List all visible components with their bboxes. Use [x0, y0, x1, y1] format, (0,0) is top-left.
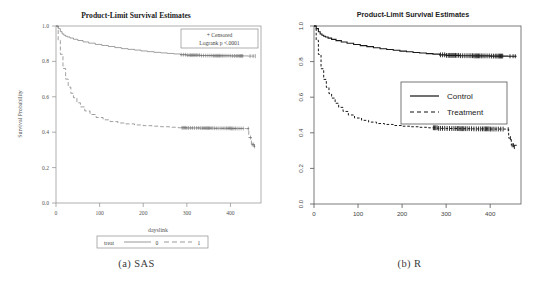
r-legend-label-control: Control — [447, 92, 473, 101]
y-tick-label: 0.0 — [297, 199, 304, 208]
sas-subcaption: (a) SAS — [0, 258, 273, 269]
y-tick-label: 0.2 — [297, 164, 304, 173]
r-chart-title: Product-Limit Survival Estimates — [357, 10, 470, 19]
sas-x-axis: 0100200300400 — [55, 203, 235, 216]
r-subcaption: (b) R — [273, 258, 546, 269]
sas-annotation-box: + Censored Logrank p <.0001 — [181, 29, 258, 48]
x-tick-label: 400 — [226, 210, 235, 216]
sas-plot-area: Product-Limit Survival Estimates 0.00.20… — [0, 0, 273, 250]
x-tick-label: 200 — [139, 210, 148, 216]
sas-svg: Product-Limit Survival Estimates 0.00.20… — [0, 0, 273, 250]
sas-legend-label-1: 1 — [198, 240, 201, 246]
sas-x-axis-label: dayslink — [148, 227, 168, 233]
x-tick-label: 0 — [312, 210, 316, 217]
curve-control — [314, 26, 517, 56]
y-tick-label: 0.0 — [42, 200, 49, 206]
y-tick-label: 0.6 — [297, 92, 304, 101]
sas-chart-title: Product-Limit Survival Estimates — [81, 11, 191, 20]
sas-legend[interactable]: treat 0 1 — [97, 236, 208, 248]
r-svg: Product-Limit Survival Estimates 0.00.20… — [273, 0, 546, 250]
sas-y-axis: 0.00.20.40.60.81.0 — [42, 23, 56, 206]
r-y-axis: 0.00.20.40.60.81.0 — [297, 21, 314, 208]
y-tick-label: 0.4 — [297, 128, 304, 137]
sas-legend-label-0: 0 — [156, 240, 159, 246]
y-tick-label: 0.2 — [42, 165, 49, 171]
r-x-axis: 0100200300400 — [312, 204, 496, 217]
figure-survival-curves: Product-Limit Survival Estimates 0.00.20… — [0, 0, 546, 289]
x-tick-label: 300 — [183, 210, 192, 216]
y-tick-label: 0.4 — [42, 129, 49, 135]
subfigure-sas: Product-Limit Survival Estimates 0.00.20… — [0, 0, 273, 289]
y-tick-label: 0.8 — [42, 58, 49, 64]
y-tick-label: 1.0 — [42, 23, 49, 29]
x-tick-label: 0 — [55, 210, 58, 216]
r-plot-area: Product-Limit Survival Estimates 0.00.20… — [273, 0, 546, 250]
y-tick-label: 1.0 — [297, 21, 304, 30]
subfigure-r: Product-Limit Survival Estimates 0.00.20… — [273, 0, 546, 289]
y-tick-label: 0.8 — [297, 57, 304, 66]
x-tick-label: 100 — [353, 210, 364, 217]
r-legend[interactable]: Control Treatment — [401, 82, 507, 124]
sas-legend-title: treat — [104, 240, 114, 246]
y-tick-label: 0.6 — [42, 94, 49, 100]
sas-y-axis-label: Survival Probability — [17, 90, 23, 138]
x-tick-label: 200 — [397, 210, 408, 217]
x-tick-label: 400 — [485, 210, 496, 217]
sas-censor-marks — [180, 53, 255, 149]
x-tick-label: 300 — [441, 210, 452, 217]
sas-censored-note: + Censored — [207, 32, 233, 38]
sas-logrank-note: Logrank p <.0001 — [199, 40, 239, 46]
r-legend-label-treatment: Treatment — [447, 108, 484, 117]
r-legend-frame — [401, 82, 507, 124]
x-tick-label: 100 — [95, 210, 104, 216]
